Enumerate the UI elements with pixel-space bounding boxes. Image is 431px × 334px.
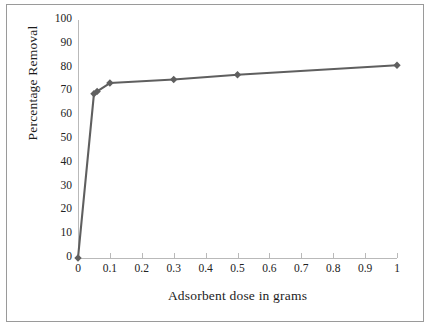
- chart-figure: 00.10.20.30.40.50.60.70.80.91 0102030405…: [0, 0, 431, 334]
- data-point-marker-0: [74, 254, 81, 261]
- data-point-marker-6: [393, 62, 400, 69]
- plot-area: 00.10.20.30.40.50.60.70.80.91 0102030405…: [0, 0, 431, 334]
- data-point-marker-5: [234, 71, 241, 78]
- series-canvas: [0, 0, 431, 334]
- x-axis-title: Adsorbent dose in grams: [78, 288, 397, 304]
- series-line-percentage-removal: [78, 65, 397, 258]
- data-point-marker-4: [170, 76, 177, 83]
- series-markers: [74, 62, 400, 262]
- y-axis-title: Percentage Removal: [25, 0, 41, 178]
